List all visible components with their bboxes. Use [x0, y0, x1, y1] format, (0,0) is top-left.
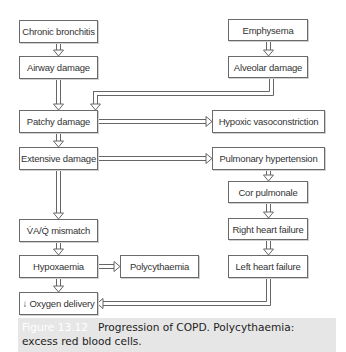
- node-right-heart-failure: Right heart failure: [228, 218, 308, 240]
- figure-caption: Figure 13.12Progression of COPD. Polycyt…: [18, 318, 336, 352]
- node-alveolar-damage: Alveolar damage: [228, 56, 308, 78]
- node-hypoxaemia: Hypoxaemia: [19, 255, 98, 278]
- node-patchy-damage: Patchy damage: [19, 110, 98, 133]
- node-left-heart-failure: Left heart failure: [228, 255, 308, 278]
- node-airway-damage: Airway damage: [19, 56, 98, 79]
- node-extensive-damage: Extensive damage: [19, 147, 98, 170]
- node-pulmonary-hypertension: Pulmonary hypertension: [212, 147, 325, 170]
- node-cor-pulmonale: Cor pulmonale: [228, 181, 308, 203]
- node-vq-mismatch: V̇A/Q̇ mismatch: [19, 219, 98, 242]
- node-hypoxic-vasoconstriction: Hypoxic vasoconstriction: [212, 110, 325, 133]
- node-emphysema: Emphysema: [228, 19, 308, 41]
- node-polycythaemia: Polycythaemia: [120, 255, 199, 278]
- figure-label: Figure 13.12: [22, 321, 88, 333]
- node-oxygen-delivery: ↓ Oxygen delivery: [19, 292, 98, 315]
- node-chronic-bronchitis: Chronic bronchitis: [19, 20, 98, 43]
